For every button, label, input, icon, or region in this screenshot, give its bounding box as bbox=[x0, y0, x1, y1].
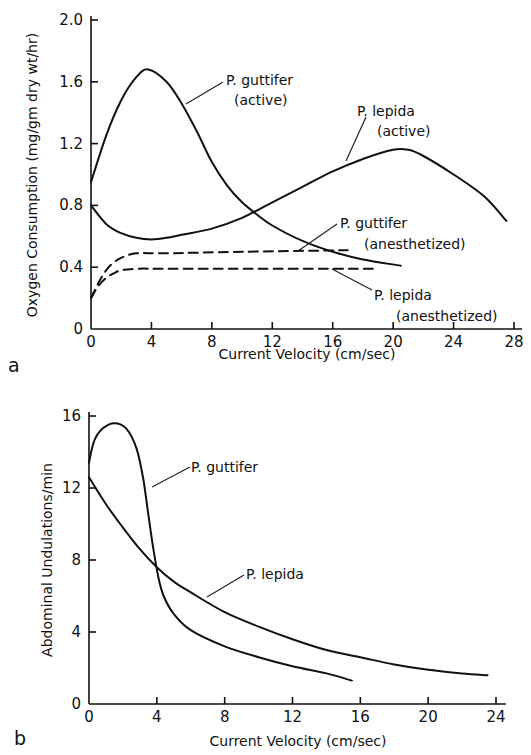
annotation-guttifer-anesthetized: P. guttifer (anesthetized) bbox=[298, 215, 466, 252]
y-tick-label: 0.4 bbox=[59, 258, 83, 276]
y-tick-label: 1.2 bbox=[59, 135, 83, 153]
chart-canvas: 048121620242800.40.81.21.62.0 a Current … bbox=[0, 0, 531, 755]
panel-a-label: a bbox=[8, 354, 20, 376]
x-tick-label: 0 bbox=[86, 333, 96, 351]
leader-line bbox=[346, 117, 366, 161]
y-tick-label: 0 bbox=[73, 320, 83, 338]
series-p-lepida-anesthetized bbox=[91, 269, 378, 298]
panel-b-label: b bbox=[14, 727, 26, 749]
x-tick-label: 0 bbox=[84, 708, 94, 726]
annotation-lepida: P. lepida bbox=[207, 566, 304, 597]
y-tick-label: 4 bbox=[71, 623, 81, 641]
annotation-guttifer-active: P. guttifer (active) bbox=[186, 72, 293, 108]
x-tick-label: 8 bbox=[207, 333, 217, 351]
y-tick-label: 2.0 bbox=[59, 11, 83, 29]
panel-a-oxygen-consumption-chart: 048121620242800.40.81.21.62.0 a Current … bbox=[8, 11, 524, 376]
annotation-line-2: (active) bbox=[234, 92, 287, 108]
annotation-line-1: P. lepida bbox=[374, 287, 432, 303]
annotation-line-2: (anesthetized) bbox=[396, 308, 498, 324]
x-tick-label: 24 bbox=[486, 708, 505, 726]
annotation-line-1: P. guttifer bbox=[226, 72, 293, 88]
panel-b-x-axis-title: Current Velocity (cm/sec) bbox=[210, 733, 387, 749]
annotation-guttifer: P. guttifer bbox=[152, 459, 258, 487]
x-tick-label: 16 bbox=[351, 708, 370, 726]
x-tick-label: 8 bbox=[220, 708, 230, 726]
x-tick-label: 12 bbox=[283, 708, 302, 726]
annotation-line-2: (anesthetized) bbox=[364, 236, 466, 252]
y-tick-label: 8 bbox=[71, 551, 81, 569]
panel-b-curves bbox=[89, 423, 488, 680]
panel-b-y-axis-title: Abdominal Undulations/min bbox=[39, 463, 55, 657]
y-tick-label: 16 bbox=[62, 407, 81, 425]
panel-a-x-axis-title: Current Velocity (cm/sec) bbox=[219, 346, 396, 362]
y-tick-label: 12 bbox=[62, 479, 81, 497]
annotation-line-1: P. lepida bbox=[357, 103, 415, 119]
x-tick-label: 20 bbox=[419, 708, 438, 726]
panel-a-axes: 048121620242800.40.81.21.62.0 bbox=[59, 11, 523, 351]
annotation-line-1: P. guttifer bbox=[340, 215, 407, 231]
series-p-lepida-active bbox=[91, 149, 506, 240]
series-p-guttifer-anesthetized bbox=[91, 250, 348, 298]
panel-a-curves bbox=[91, 69, 506, 298]
x-tick-label: 24 bbox=[444, 333, 463, 351]
x-tick-label: 28 bbox=[504, 333, 523, 351]
x-tick-label: 4 bbox=[147, 333, 157, 351]
annotation-text: P. guttifer bbox=[191, 459, 258, 475]
annotation-line-2: (active) bbox=[377, 123, 430, 139]
annotation-text: P. lepida bbox=[246, 566, 304, 582]
y-tick-label: 1.6 bbox=[59, 73, 83, 91]
figure: 048121620242800.40.81.21.62.0 a Current … bbox=[0, 0, 531, 755]
leader-line bbox=[152, 467, 190, 487]
leader-line bbox=[207, 575, 244, 597]
panel-a-y-axis-title: Oxygen Consumption (mg/gm dry wt/hr) bbox=[24, 33, 40, 317]
x-tick-label: 4 bbox=[152, 708, 162, 726]
y-tick-label: 0.8 bbox=[59, 196, 83, 214]
y-tick-label: 0 bbox=[71, 695, 81, 713]
panel-b-abdominal-undulations-chart: 048121620240481216 b Current Velocity (c… bbox=[14, 407, 506, 749]
leader-line bbox=[186, 82, 223, 104]
leader-line bbox=[332, 269, 372, 290]
annotation-lepida-anesthetized: P. lepida (anesthetized) bbox=[332, 269, 498, 324]
